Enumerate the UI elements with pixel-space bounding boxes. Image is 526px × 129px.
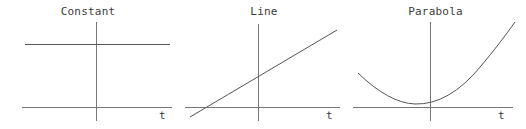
panel-constant-plot — [0, 0, 180, 129]
panel-constant: Constant t — [0, 0, 180, 129]
panel-line-xlabel: t — [326, 110, 333, 122]
panel-line: Line t — [173, 0, 345, 129]
panel-line-curve — [190, 30, 337, 117]
panel-parabola-curve — [358, 22, 515, 104]
function-shapes-figure: Constant t Line t Parabola — [0, 0, 526, 129]
panel-constant-xlabel: t — [159, 110, 166, 122]
panel-line-plot — [173, 0, 345, 129]
panel-parabola: Parabola t — [345, 0, 526, 129]
panel-parabola-xlabel: t — [498, 110, 505, 122]
